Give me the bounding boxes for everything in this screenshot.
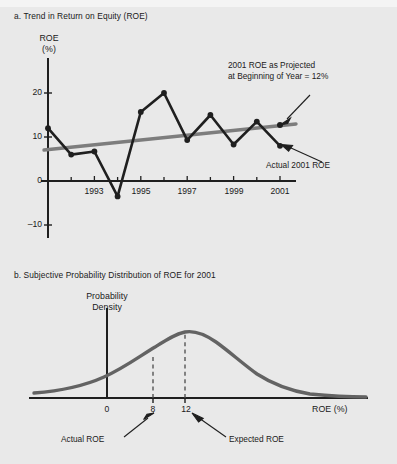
panel-b-x-tick-12: 12 (174, 404, 198, 414)
panel-a-x-tick-1993: 1993 (77, 186, 111, 196)
panel-a-y-axis-label-line1: ROE (28, 33, 70, 43)
panel-b-expected-arrow (192, 413, 226, 437)
panel-b-x-tick-0: 0 (97, 404, 117, 414)
panel-a-y-tick-neg10: –10 (18, 219, 42, 229)
panel-b-plot (29, 308, 368, 437)
panel-b-title: b. Subjective Probability Distribution o… (14, 271, 216, 281)
panel-b-y-axis-label-line1: Probability (77, 291, 137, 301)
panel-a-title: a. Trend in Return on Equity (ROE) (14, 12, 148, 22)
panel-b-y-axis-label-line2: Density (77, 302, 137, 312)
panel-b-annotation-expected: Expected ROE (229, 434, 284, 445)
panel-a-y-tick-10: 10 (24, 131, 42, 141)
panel-b-density-curve (34, 332, 366, 397)
panel-a-projected-arrow (280, 95, 310, 125)
figure-container: a. Trend in Return on Equity (ROE) ROE (… (0, 0, 397, 464)
panel-a-y-tick-20: 20 (24, 87, 42, 97)
panel-a-annotation-projected-line2: at Beginning of Year = 12% (228, 71, 328, 82)
panel-a-y-axis-label-line2: (%) (28, 44, 70, 54)
panel-a-x-tick-1999: 1999 (217, 186, 251, 196)
panel-b-annotation-actual: Actual ROE (61, 434, 104, 445)
panel-a-plot (41, 58, 322, 238)
panel-b-x-tick-8: 8 (143, 404, 163, 414)
panel-a-x-tick-1995: 1995 (124, 186, 158, 196)
panel-a-y-tick-0: 0 (24, 175, 42, 185)
panel-a-trend-line (44, 124, 296, 150)
panel-a-annotation-actual: Actual 2001 ROE (266, 160, 330, 171)
panel-b-x-axis-label: ROE (%) (312, 404, 348, 414)
panel-a-annotation-projected-line1: 2001 ROE as Projected (228, 60, 315, 71)
panel-b-actual-arrow (124, 413, 154, 437)
figure-drawing-layer (0, 0, 397, 464)
panel-a-x-tick-1997: 1997 (170, 186, 204, 196)
panel-a-x-tick-2001: 2001 (263, 186, 297, 196)
